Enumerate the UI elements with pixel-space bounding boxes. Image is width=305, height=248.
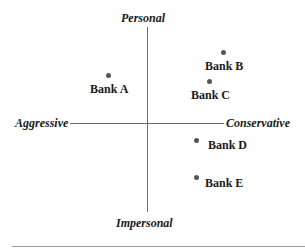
point-label-bank-a: Bank A bbox=[90, 82, 128, 96]
data-point-bank-c bbox=[207, 79, 212, 84]
horizontal-axis bbox=[70, 123, 224, 124]
bottom-divider bbox=[12, 246, 305, 247]
point-label-bank-d: Bank D bbox=[208, 138, 247, 152]
point-label-bank-e: Bank E bbox=[205, 176, 243, 190]
axis-label-conservative: Conservative bbox=[226, 116, 290, 130]
data-point-bank-d bbox=[194, 138, 199, 143]
data-point-bank-e bbox=[194, 175, 199, 180]
vertical-axis bbox=[147, 27, 148, 212]
point-label-bank-b: Bank B bbox=[205, 59, 243, 73]
axis-label-personal: Personal bbox=[121, 11, 165, 25]
data-point-bank-a bbox=[106, 73, 111, 78]
point-label-bank-c: Bank C bbox=[191, 88, 230, 102]
data-point-bank-b bbox=[221, 50, 226, 55]
axis-label-aggressive: Aggressive bbox=[15, 116, 68, 130]
axis-label-impersonal: Impersonal bbox=[116, 216, 173, 230]
